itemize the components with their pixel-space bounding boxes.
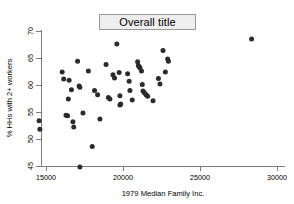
scatter-plot-figure: Overall title 455055606570 1500020000250… xyxy=(0,0,294,204)
y-tick-label: 55 xyxy=(26,108,35,116)
y-axis-title: % HHs with 2+ workers xyxy=(5,58,14,137)
y-axis-ticks: 455055606570 xyxy=(26,27,42,170)
data-point xyxy=(156,76,161,81)
y-tick-label: 45 xyxy=(26,162,35,170)
data-point xyxy=(66,97,71,102)
data-point xyxy=(151,98,156,103)
y-tick-label: 60 xyxy=(26,81,35,89)
data-point xyxy=(130,98,135,103)
y-tick-label: 70 xyxy=(26,27,35,35)
x-tick-label: 15000 xyxy=(36,173,56,182)
data-point xyxy=(112,75,117,80)
data-point xyxy=(97,117,102,122)
data-point xyxy=(37,127,42,132)
data-point xyxy=(140,82,145,87)
x-tick-label: 20000 xyxy=(113,173,133,182)
data-point xyxy=(69,87,74,92)
data-point xyxy=(139,68,144,73)
data-point xyxy=(37,118,42,123)
data-point xyxy=(125,71,130,76)
y-tick-label: 50 xyxy=(26,135,35,143)
data-point xyxy=(117,70,122,75)
data-point xyxy=(86,68,91,73)
data-point xyxy=(118,101,123,106)
data-point xyxy=(60,70,65,75)
data-point xyxy=(107,97,112,102)
data-point xyxy=(127,79,132,84)
y-tick-label: 65 xyxy=(26,54,35,62)
data-point xyxy=(249,37,254,42)
data-point xyxy=(70,119,75,124)
data-point xyxy=(75,59,80,64)
data-point xyxy=(65,113,70,118)
x-tick-label: 25000 xyxy=(190,173,210,182)
data-point xyxy=(161,48,166,53)
data-point xyxy=(80,111,85,116)
x-axis-title: 1979 Median Family Inc. xyxy=(122,189,205,198)
data-point xyxy=(117,93,122,98)
data-point xyxy=(163,70,168,75)
data-point xyxy=(77,85,82,90)
data-point xyxy=(145,94,150,99)
data-markers xyxy=(37,37,255,170)
data-point xyxy=(157,81,162,86)
data-point xyxy=(61,77,66,82)
x-axis-ticks: 15000200002500030000 xyxy=(36,167,287,183)
data-point xyxy=(71,125,76,130)
data-point xyxy=(90,144,95,149)
data-point xyxy=(92,88,97,93)
x-tick-label: 30000 xyxy=(267,173,287,182)
data-point xyxy=(127,88,132,93)
plot-canvas: 455055606570 15000200002500030000 1979 M… xyxy=(0,0,294,204)
data-point xyxy=(67,78,72,83)
data-point xyxy=(104,62,109,67)
data-point xyxy=(114,41,119,46)
data-point xyxy=(166,59,171,64)
data-point xyxy=(95,92,100,97)
data-point xyxy=(77,165,82,170)
